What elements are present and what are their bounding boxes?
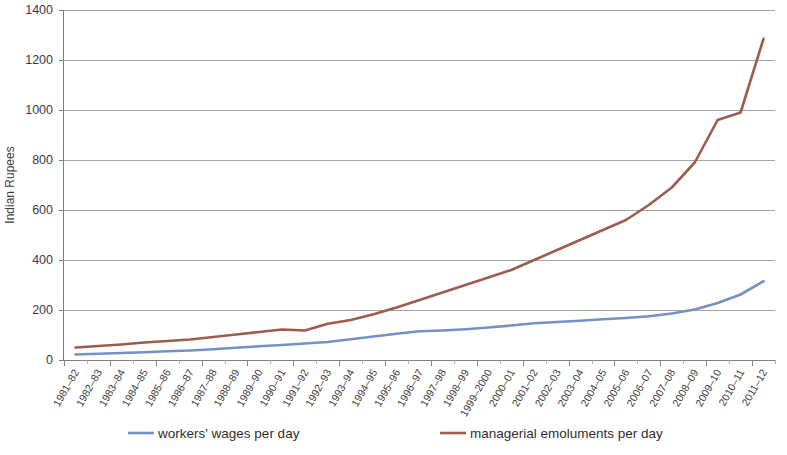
y-tick-label: 600: [32, 203, 53, 217]
y-axis-title: Indian Rupees: [3, 146, 17, 223]
y-tick-label: 1000: [25, 103, 53, 117]
series-line-1: [75, 281, 763, 354]
y-tick-label: 1200: [25, 53, 53, 67]
y-tick-labels-group: 0200400600800100012001400: [25, 3, 53, 367]
y-tick-label: 800: [32, 153, 53, 167]
line-chart: 0200400600800100012001400 1981–821982–83…: [0, 0, 787, 455]
y-tick-label: 0: [46, 353, 53, 367]
x-tick-labels-group: 1981–821982–831983–841984–851985–861986–…: [50, 367, 769, 419]
y-tick-label: 1400: [25, 3, 53, 17]
y-tick-label: 200: [32, 303, 53, 317]
series-line-2: [75, 39, 763, 348]
legend-label-2: managerial emoluments per day: [470, 426, 663, 441]
legend: workers' wages per daymanagerial emolume…: [128, 426, 663, 441]
chart-canvas: 0200400600800100012001400 1981–821982–83…: [0, 0, 787, 455]
series-group: [75, 39, 763, 355]
y-tick-label: 400: [32, 253, 53, 267]
legend-label-1: workers' wages per day: [157, 426, 300, 441]
gridlines-group: [64, 11, 775, 311]
